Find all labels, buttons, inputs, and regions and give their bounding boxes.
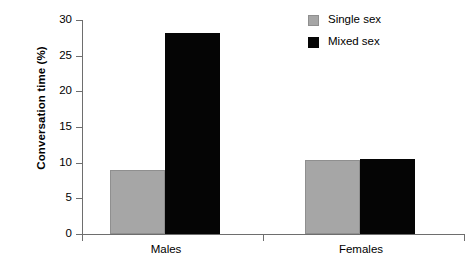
y-tick-label: 0 <box>12 228 72 240</box>
y-axis-line <box>82 20 83 235</box>
x-tick-mark <box>464 235 465 241</box>
y-tick-mark <box>76 198 82 199</box>
legend: Single sex Mixed sex <box>308 12 381 56</box>
y-axis-title: Conversation time (%) <box>35 13 47 203</box>
y-tick-mark <box>76 56 82 57</box>
y-tick-label: 20 <box>12 85 72 97</box>
legend-item-single-sex: Single sex <box>308 12 381 28</box>
x-group-label-females: Females <box>339 243 383 255</box>
y-tick-label: 15 <box>12 121 72 133</box>
bar-males-mixed-sex <box>165 33 220 234</box>
x-group-label-males: Males <box>151 243 182 255</box>
bar-females-single-sex <box>305 160 360 234</box>
x-tick-mark <box>82 235 83 241</box>
legend-label-single-sex: Single sex <box>328 14 381 26</box>
y-tick-label: 5 <box>12 192 72 204</box>
single-sex-swatch-icon <box>308 15 319 26</box>
y-tick-mark <box>76 91 82 92</box>
bar-males-single-sex <box>110 170 165 234</box>
y-tick-label: 25 <box>12 50 72 62</box>
mixed-sex-swatch-icon <box>308 37 319 48</box>
bar-females-mixed-sex <box>360 159 415 234</box>
x-tick-mark <box>263 235 264 241</box>
y-tick-mark <box>76 163 82 164</box>
x-axis-line <box>82 234 465 235</box>
y-tick-mark <box>76 127 82 128</box>
legend-item-mixed-sex: Mixed sex <box>308 34 381 50</box>
bar-chart: Conversation time (%) 0 5 10 15 20 25 30… <box>0 0 475 270</box>
y-tick-mark <box>76 20 82 21</box>
y-tick-label: 10 <box>12 157 72 169</box>
legend-label-mixed-sex: Mixed sex <box>328 36 380 48</box>
y-tick-label: 30 <box>12 14 72 26</box>
